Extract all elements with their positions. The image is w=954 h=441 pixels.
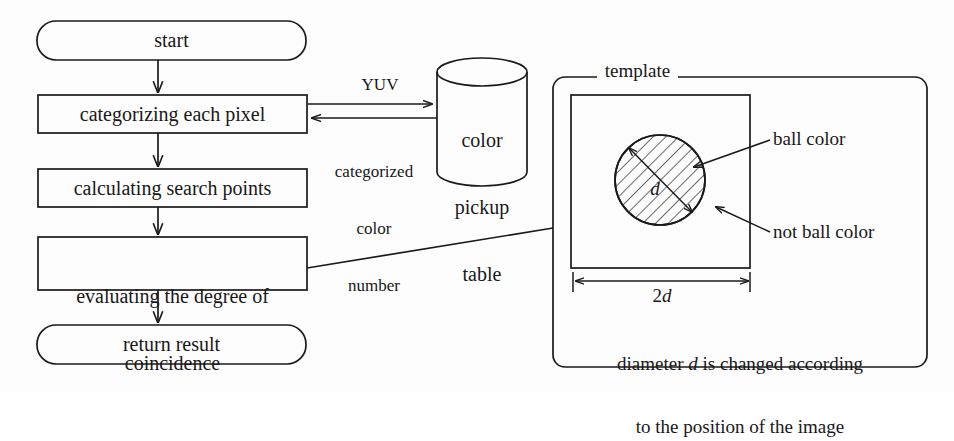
dimension-diameter-label: d — [645, 178, 665, 199]
template-caption: diameter d is changed according to the p… — [553, 310, 927, 441]
template-caption-line1: diameter d is changed according — [553, 353, 927, 374]
datastore-label-line3: table — [437, 263, 527, 285]
node-evaluate-label-line1: evaluating the degree of — [38, 285, 307, 307]
edge-categorized-color-number-label: categorized color number — [312, 124, 436, 333]
node-evaluate-label: evaluating the degree of coincidence — [38, 240, 307, 419]
template-caption-line1-b: is changed according — [698, 353, 863, 374]
datastore-label-line1: color — [437, 129, 527, 151]
template-caption-line2: to the position of the image — [553, 416, 927, 437]
annotation-ball-color-label: ball color — [773, 128, 923, 149]
datastore-label: color pickup table — [437, 84, 527, 330]
dimension-2d-prefix: 2 — [653, 285, 663, 306]
dimension-2d-label: 2d — [619, 285, 705, 306]
node-start-label: start — [37, 29, 306, 51]
edge-categorized-label-line1: categorized — [312, 162, 436, 181]
edge-categorized-label-line3: number — [312, 276, 436, 295]
annotation-ball-color-leader — [694, 140, 770, 167]
datastore-cylinder-top — [437, 58, 527, 86]
annotation-not-ball-color-leader — [716, 207, 770, 232]
edge-categorized-label-line2: color — [312, 219, 436, 238]
node-return-label: return result — [37, 333, 306, 355]
template-panel-title: template — [597, 60, 678, 81]
annotation-not-ball-color-label: not ball color — [773, 221, 933, 242]
datastore-label-line2: pickup — [437, 196, 527, 218]
template-caption-line1-a: diameter — [617, 353, 688, 374]
dimension-2d-symbol: d — [662, 285, 672, 306]
node-search-points-label: calculating search points — [38, 177, 307, 199]
template-caption-line1-symbol: d — [688, 353, 698, 374]
edge-yuv-label: YUV — [330, 75, 430, 94]
node-categorize-label: categorizing each pixel — [38, 103, 307, 125]
